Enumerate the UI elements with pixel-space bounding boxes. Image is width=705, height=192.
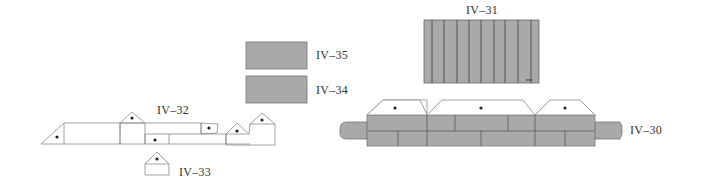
iv32-dots [55,116,263,141]
piece-iv33 [145,152,169,175]
label-iv35: IV–35 [316,48,348,63]
label-iv31: IV–31 [466,3,498,18]
papercraft-sheet [0,0,705,192]
piece-iv34 [246,76,307,103]
label-iv32: IV–32 [157,103,189,118]
label-iv33: IV–33 [179,165,211,180]
piece-iv35 [246,42,307,69]
label-iv30: IV–30 [630,123,662,138]
piece-iv31 [424,20,539,83]
label-iv34: IV–34 [316,83,348,98]
